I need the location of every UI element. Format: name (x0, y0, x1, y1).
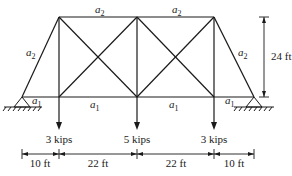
span-label-4: 10 ft (224, 157, 244, 169)
member-label-right-diagonal: a2 (238, 46, 248, 61)
truss-diagram: 3 kips 5 kips 3 kips a2 a2 a2 a2 a1 a1 a… (0, 0, 292, 176)
height-dimension-label: 24 ft (271, 50, 291, 62)
span-dimensions (22, 149, 254, 159)
member-label-top-right: a2 (172, 3, 182, 18)
member-label-bottom-right-end: a1 (225, 94, 235, 109)
load-label-left: 3 kips (46, 133, 73, 145)
member-label-bottom-right-mid: a1 (169, 98, 179, 113)
truss-members (22, 17, 254, 97)
member-label-top-left: a2 (95, 3, 105, 18)
right-pin-support (234, 97, 274, 111)
load-label-right: 3 kips (201, 133, 228, 145)
right-end-diagonal (214, 17, 254, 97)
member-label-bottom-left-mid: a1 (90, 98, 100, 113)
load-arrows (56, 97, 217, 130)
height-dimension (259, 17, 269, 97)
span-label-1: 10 ft (30, 157, 50, 169)
span-label-2: 22 ft (88, 157, 108, 169)
load-label-center: 5 kips (124, 133, 151, 145)
span-label-3: 22 ft (166, 157, 186, 169)
member-label-left-diagonal: a2 (26, 46, 36, 61)
